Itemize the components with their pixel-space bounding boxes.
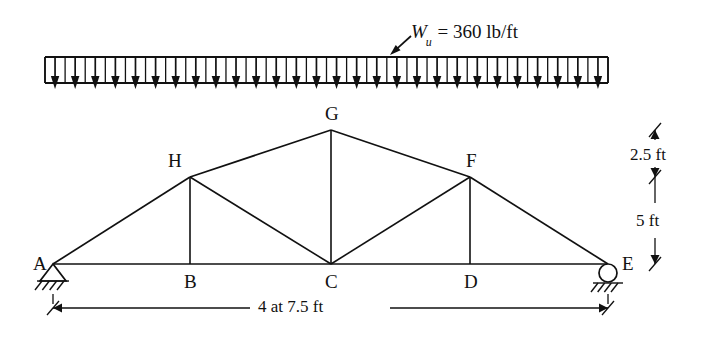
truss-figure: ABCDEFGH4 at 7.5 ft2.5 ft5 ft Wu = 360 l… bbox=[0, 0, 704, 339]
roller-support-circle bbox=[599, 264, 617, 282]
distributed-load-label: Wu = 360 lb/ft bbox=[411, 22, 518, 45]
truss-member-HG bbox=[190, 130, 331, 177]
pin-support-hatch bbox=[57, 281, 64, 290]
truss-member-HC bbox=[190, 177, 331, 264]
load-symbol: W bbox=[411, 21, 427, 42]
joint-label-H: H bbox=[168, 151, 182, 170]
span-dim-arrow-left bbox=[53, 304, 62, 313]
pin-support-hatch bbox=[35, 281, 42, 290]
height-lower-dimension-label: 5 ft bbox=[636, 212, 659, 229]
joint-label-C: C bbox=[325, 272, 338, 291]
distributed-load-group bbox=[45, 57, 608, 89]
load-magnitude: 360 bbox=[453, 21, 482, 42]
roller-support-hatch bbox=[611, 283, 618, 292]
truss-diagram-canvas bbox=[0, 0, 704, 339]
joint-label-D: D bbox=[464, 272, 478, 291]
roller-support-hatch bbox=[604, 283, 611, 292]
pin-support-hatch bbox=[50, 281, 57, 290]
roller-support-hatch bbox=[598, 283, 605, 292]
truss-member-FE bbox=[470, 177, 608, 264]
dimension-lines-group bbox=[47, 123, 661, 315]
truss-member-GF bbox=[331, 130, 470, 177]
leader-stem bbox=[396, 36, 411, 50]
truss-member-CF bbox=[331, 177, 470, 264]
joint-label-B: B bbox=[184, 272, 197, 291]
span-dimension-label: 4 at 7.5 ft bbox=[258, 298, 323, 315]
joint-label-A: A bbox=[33, 254, 47, 273]
truss-member-AH bbox=[53, 177, 190, 264]
height-upper-dimension-label: 2.5 ft bbox=[630, 146, 666, 163]
span-dim-arrow-right bbox=[599, 304, 608, 313]
load-units: lb/ft bbox=[486, 21, 518, 42]
joint-label-G: G bbox=[325, 104, 339, 123]
joint-label-E: E bbox=[622, 254, 634, 273]
load-equals: = bbox=[438, 21, 449, 42]
load-leader-arrow bbox=[390, 36, 411, 55]
truss-members-group bbox=[53, 130, 608, 264]
joint-label-F: F bbox=[466, 151, 477, 170]
roller-support-hatch bbox=[591, 283, 598, 292]
pin-support-hatch bbox=[42, 281, 49, 290]
load-subscript: u bbox=[426, 35, 432, 49]
